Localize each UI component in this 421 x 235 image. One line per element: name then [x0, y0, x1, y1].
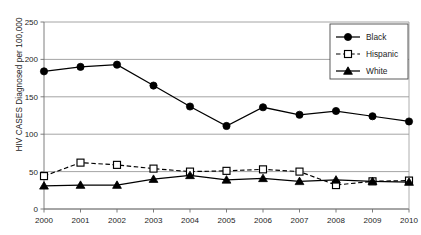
data-point-marker — [344, 33, 351, 40]
x-axis-ticks: 2000200120022003200420052006200720082009… — [35, 209, 418, 225]
data-point-marker — [223, 167, 230, 174]
x-tick-label: 2009 — [364, 216, 382, 225]
legend-label: Hispanic — [366, 49, 398, 59]
y-tick-label: 200 — [25, 55, 39, 64]
chart-canvas: 050100150200250 200020012002200320042005… — [0, 0, 421, 235]
x-tick-label: 2000 — [35, 216, 53, 225]
series-layer — [40, 61, 414, 189]
y-tick-label: 0 — [34, 205, 39, 214]
data-point-marker — [150, 82, 157, 89]
data-point-marker — [260, 166, 267, 173]
data-point-marker — [77, 159, 84, 166]
legend-item-hispanic[interactable]: Hispanic — [336, 49, 398, 59]
legend-label: Black — [366, 32, 387, 42]
x-tick-label: 2003 — [145, 216, 163, 225]
data-point-marker — [150, 165, 157, 172]
hiv-cases-line-chart: HIV CASES Diagnosed per 100,000 05010015… — [0, 0, 421, 235]
x-tick-label: 2001 — [72, 216, 90, 225]
x-tick-label: 2008 — [327, 216, 345, 225]
x-tick-label: 2002 — [108, 216, 126, 225]
x-tick-label: 2004 — [181, 216, 199, 225]
data-point-marker — [369, 113, 376, 120]
data-point-marker — [259, 104, 266, 111]
y-axis-ticks: 050100150200250 — [25, 18, 44, 214]
data-point-marker — [296, 111, 303, 118]
data-point-marker — [405, 118, 412, 125]
data-point-marker — [77, 63, 84, 70]
x-tick-label: 2005 — [218, 216, 236, 225]
data-point-marker — [345, 51, 352, 58]
data-point-marker — [114, 161, 121, 168]
data-point-marker — [41, 173, 48, 180]
data-point-marker — [113, 61, 120, 68]
x-tick-label: 2006 — [254, 216, 272, 225]
data-point-marker — [332, 107, 339, 114]
y-tick-label: 100 — [25, 130, 39, 139]
data-point-marker — [186, 103, 193, 110]
y-tick-label: 250 — [25, 18, 39, 27]
x-tick-label: 2007 — [291, 216, 309, 225]
x-tick-label: 2010 — [400, 216, 418, 225]
legend-label: White — [366, 66, 388, 76]
y-tick-label: 150 — [25, 93, 39, 102]
series-hispanic — [41, 159, 413, 188]
chart-legend[interactable]: BlackHispanicWhite — [330, 24, 408, 79]
y-tick-label: 50 — [29, 168, 38, 177]
data-point-marker — [40, 68, 47, 75]
data-point-marker — [223, 122, 230, 129]
data-point-marker — [296, 168, 303, 175]
